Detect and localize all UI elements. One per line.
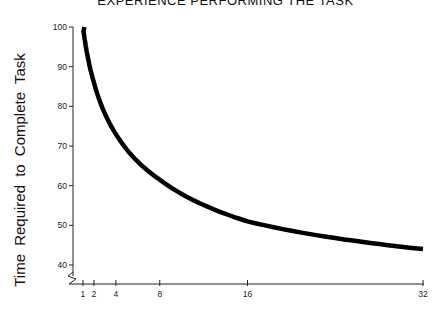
y-tick-label: 40 — [58, 260, 68, 270]
y-tick-label: 100 — [53, 22, 67, 32]
y-tick-label: 90 — [58, 62, 68, 72]
x-tick-label: 4 — [114, 289, 119, 299]
x-tick-label: 2 — [92, 289, 97, 299]
x-axis-ticks: 12481632 — [81, 280, 428, 299]
y-tick-label: 50 — [58, 220, 68, 230]
x-tick-label: 32 — [418, 289, 428, 299]
learning-curve-line — [84, 27, 424, 249]
y-axis-break-icon — [68, 272, 76, 284]
x-tick-label: 16 — [243, 289, 253, 299]
y-tick-label: 60 — [58, 181, 68, 191]
x-tick-label: 1 — [81, 289, 86, 299]
chart-plot: 405060708090100 12481632 — [0, 0, 441, 318]
x-tick-label: 8 — [157, 289, 162, 299]
y-axis-ticks: 405060708090100 — [53, 22, 73, 270]
y-tick-label: 80 — [58, 101, 68, 111]
y-tick-label: 70 — [58, 141, 68, 151]
